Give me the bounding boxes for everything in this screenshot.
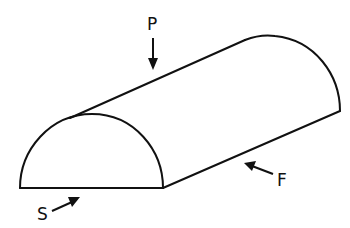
- label-p: P: [147, 14, 157, 34]
- bottom-right-edge: [163, 111, 340, 188]
- arrow-p-head: [148, 58, 158, 70]
- top-tangent-edge: [70, 40, 245, 118]
- label-s: S: [37, 204, 48, 224]
- arrow-s: S: [37, 197, 80, 224]
- arrow-p: P: [147, 14, 158, 70]
- label-f: F: [277, 170, 287, 190]
- front-face-arc: [20, 114, 163, 188]
- back-face-arc: [245, 35, 340, 111]
- arrow-f: F: [244, 161, 287, 190]
- half-cylinder-diagram: P F S: [0, 0, 350, 228]
